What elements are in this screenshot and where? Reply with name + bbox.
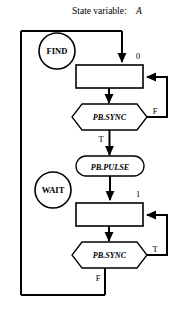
edge-label-sync2-false: F	[96, 273, 101, 283]
state-find-label: FIND	[47, 46, 68, 56]
edge-label-sync1-true: T	[98, 134, 104, 144]
node-sync-1-label: PB.SYNC	[93, 113, 127, 122]
edge-label-box0-out: 0	[136, 51, 140, 61]
flowchart-canvas: State variable: A FIND 0 PB.SYNC F T PB.…	[0, 0, 180, 310]
node-pulse-label: PB.PULSE	[91, 163, 130, 172]
edge-label-sync2-true: T	[152, 244, 158, 254]
node-sync-2-label: PB.SYNC	[93, 251, 127, 260]
edge-label-sync1-false: F	[153, 106, 158, 116]
title-variable: A	[135, 6, 142, 16]
title-label: State variable:	[72, 6, 127, 16]
node-box-0	[76, 65, 143, 88]
node-box-1	[76, 203, 143, 226]
state-wait-label: WAIT	[42, 185, 65, 195]
edge-label-box1-out: 1	[136, 189, 140, 199]
flowchart-diagram: State variable: A FIND 0 PB.SYNC F T PB.…	[0, 0, 180, 310]
